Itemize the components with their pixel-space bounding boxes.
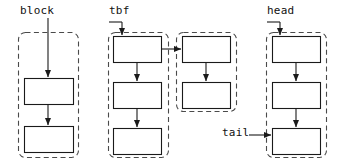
- diagram-graphics: [0, 0, 345, 164]
- label-head: head: [267, 4, 294, 17]
- node-box-head-box-3: [273, 129, 321, 155]
- label-tbf: tbf: [109, 4, 129, 17]
- arrows-layer: [48, 18, 296, 135]
- node-box-tbf-box-3: [114, 129, 162, 155]
- label-block: block: [20, 4, 54, 17]
- label-tail: tail: [222, 126, 249, 139]
- diagram-canvas: blocktbfheadtail: [0, 0, 345, 164]
- node-boxes-layer: [25, 37, 321, 155]
- node-box-mid-box-2: [183, 83, 231, 109]
- node-box-head-box-1: [273, 37, 321, 63]
- node-box-tbf-box-1: [114, 37, 162, 63]
- node-box-block-box-1: [25, 79, 74, 105]
- node-box-block-box-2: [25, 127, 74, 153]
- node-box-head-box-2: [273, 83, 321, 109]
- node-box-tbf-box-2: [114, 83, 162, 109]
- node-box-mid-box-1: [183, 37, 231, 63]
